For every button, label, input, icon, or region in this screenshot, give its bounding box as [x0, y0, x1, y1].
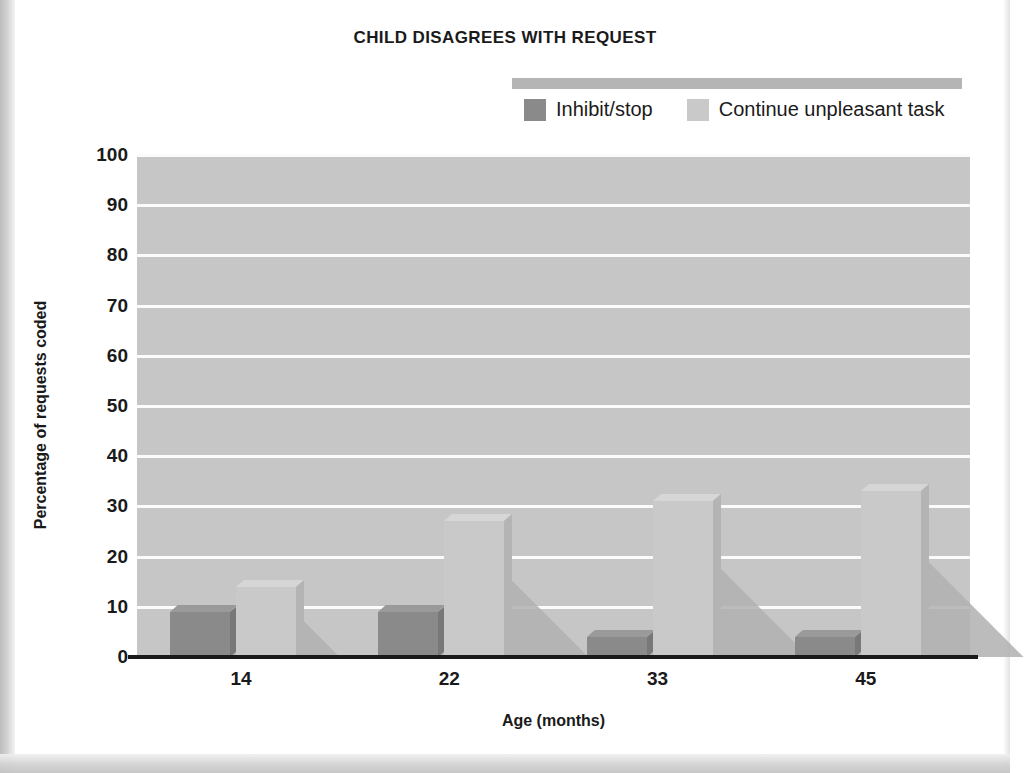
bar-face: [861, 491, 921, 657]
x-axis-title: Age (months): [137, 712, 970, 730]
bar-inhibit-stop-22[interactable]: [378, 612, 438, 657]
legend-label-series-0: Inhibit/stop: [556, 98, 653, 121]
bar-side-face: [504, 515, 512, 657]
x-tick-label-14: 14: [231, 668, 252, 690]
legend-item-continue-unpleasant-task[interactable]: Continue unpleasant task: [687, 98, 945, 121]
legend-top-strip: [512, 78, 962, 89]
y-tick-label-80: 80: [107, 244, 128, 266]
legend-items: Inhibit/stop Continue unpleasant task: [512, 98, 962, 121]
bar-continue-unpleasant-task-22[interactable]: [444, 521, 504, 657]
gridline-y-30: [137, 505, 970, 508]
y-axis-title: Percentage of requests coded: [32, 250, 50, 580]
bar-inhibit-stop-33[interactable]: [587, 637, 647, 657]
gridline-y-70: [137, 305, 970, 308]
gridline-y-60: [137, 355, 970, 358]
y-tick-label-10: 10: [107, 596, 128, 618]
bar-top-face: [444, 514, 512, 521]
chart-title: CHILD DISAGREES WITH REQUEST: [0, 28, 1010, 48]
bar-face: [378, 612, 438, 657]
x-tick-label-45: 45: [855, 668, 876, 690]
legend-swatch-icon-series-0: [524, 99, 546, 121]
bar-shadow: [921, 554, 1024, 657]
gridline-y-80: [137, 254, 970, 257]
bar-side-face: [296, 580, 304, 657]
y-tick-label-30: 30: [107, 495, 128, 517]
bar-top-face: [587, 630, 655, 637]
bar-top-face: [378, 605, 446, 612]
y-tick-label-90: 90: [107, 194, 128, 216]
y-tick-label-60: 60: [107, 345, 128, 367]
bar-continue-unpleasant-task-14[interactable]: [236, 587, 296, 657]
gridline-y-90: [137, 204, 970, 207]
bar-inhibit-stop-45[interactable]: [795, 637, 855, 657]
y-tick-label-0: 0: [117, 646, 128, 668]
bar-face: [236, 587, 296, 657]
gridline-y-40: [137, 455, 970, 458]
plot-area: [137, 155, 970, 657]
bar-face: [587, 637, 647, 657]
bar-top-face: [861, 484, 929, 491]
bar-face: [653, 501, 713, 657]
gridline-y-50: [137, 405, 970, 408]
y-tick-label-70: 70: [107, 295, 128, 317]
chart-legend: Inhibit/stop Continue unpleasant task: [512, 78, 962, 121]
bar-face: [444, 521, 504, 657]
y-tick-label-40: 40: [107, 445, 128, 467]
gridline-y-100: [137, 154, 970, 157]
x-axis-tick-labels: 14223345: [137, 668, 970, 698]
bar-top-face: [170, 605, 238, 612]
bar-continue-unpleasant-task-45[interactable]: [861, 491, 921, 657]
x-tick-label-22: 22: [439, 668, 460, 690]
gridline-y-20: [137, 556, 970, 559]
bar-inhibit-stop-14[interactable]: [170, 612, 230, 657]
y-tick-label-50: 50: [107, 395, 128, 417]
y-tick-label-100: 100: [96, 144, 128, 166]
x-axis-line: [128, 655, 978, 659]
bar-top-face: [653, 494, 721, 501]
y-axis-tick-labels: 0102030405060708090100: [78, 145, 128, 667]
legend-swatch-icon-series-1: [687, 99, 709, 121]
bar-top-face: [236, 580, 304, 587]
bar-face: [170, 612, 230, 657]
y-tick-label-20: 20: [107, 546, 128, 568]
x-tick-label-33: 33: [647, 668, 668, 690]
bar-side-face: [921, 484, 929, 657]
bar-top-face: [795, 630, 863, 637]
legend-item-inhibit-stop[interactable]: Inhibit/stop: [524, 98, 653, 121]
bar-face: [795, 637, 855, 657]
bar-side-face: [713, 494, 721, 657]
bar-continue-unpleasant-task-33[interactable]: [653, 501, 713, 657]
bar-shadow: [504, 573, 588, 657]
legend-label-series-1: Continue unpleasant task: [719, 98, 945, 121]
